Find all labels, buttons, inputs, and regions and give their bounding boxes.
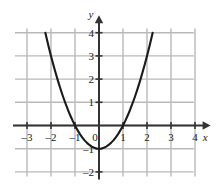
parabola-figure: –3–2–112344321–1–20xy — [0, 0, 222, 191]
x-axis-label: x — [202, 131, 208, 143]
y-axis-arrow — [95, 15, 103, 23]
x-tick-label: –2 — [45, 131, 57, 143]
y-axis-label: y — [88, 8, 94, 20]
x-axis-arrow — [203, 121, 211, 129]
y-tick-label: –1 — [82, 143, 94, 155]
x-tick-label: 4 — [192, 131, 198, 143]
x-tick-label: 3 — [168, 131, 174, 143]
x-tick-label: 1 — [120, 131, 126, 143]
x-tick-label: –1 — [69, 131, 81, 143]
y-tick-label: 2 — [89, 73, 95, 85]
x-tick-label: –3 — [21, 131, 34, 143]
y-tick-label: 4 — [89, 27, 95, 39]
origin-label: 0 — [92, 131, 98, 143]
y-tick-label: –2 — [82, 166, 94, 178]
x-tick-label: 2 — [144, 131, 150, 143]
tick-labels: –3–2–112344321–1–20xy — [21, 8, 208, 178]
graph-canvas: –3–2–112344321–1–20xy — [0, 0, 222, 191]
axes-group — [13, 15, 211, 179]
y-tick-label: 1 — [89, 96, 95, 108]
y-tick-label: 3 — [89, 50, 95, 62]
grid-lines — [15, 29, 195, 177]
